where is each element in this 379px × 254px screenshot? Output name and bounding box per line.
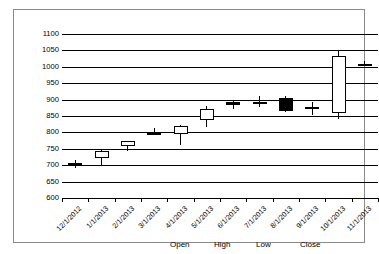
x-axis-tickmark — [62, 198, 63, 202]
x-axis-tickmark — [167, 198, 168, 202]
candlestick — [200, 34, 214, 198]
candle-body — [332, 56, 346, 112]
x-axis-tickmark — [141, 198, 142, 202]
candlestick — [358, 34, 372, 198]
legend-item-high: High — [214, 240, 230, 249]
x-axis-tickmark — [273, 198, 274, 202]
y-axis-tick-label: 900 — [15, 96, 59, 104]
candlestick — [279, 34, 293, 198]
legend-item-low: Low — [256, 240, 271, 249]
x-axis-tickmark — [115, 198, 116, 202]
candlestick — [68, 34, 82, 198]
candle-body — [121, 141, 135, 146]
y-axis-tick-label: 1050 — [15, 46, 59, 54]
candlestick — [121, 34, 135, 198]
candlestick — [305, 34, 319, 198]
candle-body — [174, 126, 188, 134]
x-axis-tickmark — [220, 198, 221, 202]
x-axis-tickmark — [299, 198, 300, 202]
candlestick — [253, 34, 267, 198]
y-axis-tick-label: 600 — [15, 194, 59, 202]
y-axis-tick-label: 1000 — [15, 63, 59, 71]
legend-item-close: Close — [300, 240, 320, 249]
candle-body — [68, 163, 82, 166]
x-axis-tickmark — [88, 198, 89, 202]
candle-body — [305, 107, 319, 110]
y-axis-tick-label: 650 — [15, 178, 59, 186]
x-axis-tickmark — [325, 198, 326, 202]
y-axis-tick-label: 1100 — [15, 30, 59, 38]
candle-body — [358, 64, 372, 67]
y-axis-tick-label: 800 — [15, 128, 59, 136]
candlestick — [174, 34, 188, 198]
y-axis-tick-label: 750 — [15, 145, 59, 153]
y-axis-tick-label: 950 — [15, 79, 59, 87]
x-axis-tickmark — [352, 198, 353, 202]
candle-body — [147, 132, 161, 135]
candlestick — [226, 34, 240, 198]
candlestick — [332, 34, 346, 198]
y-axis-tick-label: 700 — [15, 161, 59, 169]
chart-frame: 110010501000950900850800750700650600 12/… — [13, 9, 365, 243]
candle-body — [279, 98, 293, 111]
candle-body — [200, 109, 214, 120]
plot-area: 110010501000950900850800750700650600 12/… — [62, 34, 378, 198]
candle-body — [95, 151, 109, 158]
legend-item-open: Open — [170, 240, 190, 249]
candlestick — [95, 34, 109, 198]
candle-body — [226, 102, 240, 105]
y-axis-tick-label: 850 — [15, 112, 59, 120]
candle-body — [253, 102, 267, 105]
x-axis-tickmark — [194, 198, 195, 202]
x-axis-tickmark — [246, 198, 247, 202]
candlestick — [147, 34, 161, 198]
